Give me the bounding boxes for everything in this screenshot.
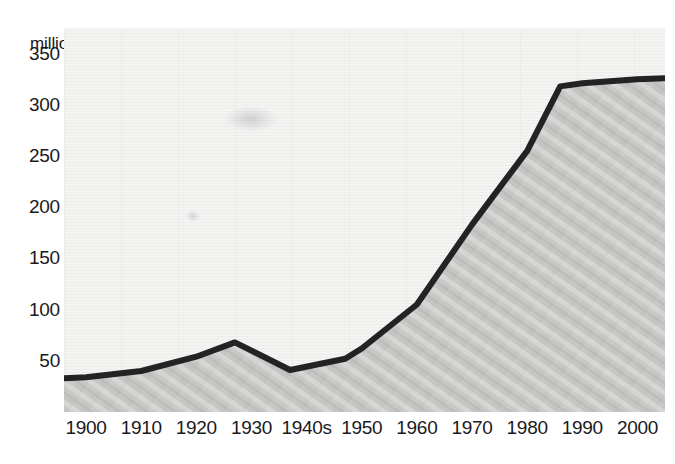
x-tick-label: 1930 bbox=[231, 417, 272, 439]
line-chart-figure: million bottles 35030025020015010050 bbox=[0, 0, 675, 464]
x-tick-label: 1900 bbox=[66, 417, 107, 439]
y-tick-label: 50 bbox=[2, 350, 60, 372]
series-area-fill bbox=[64, 78, 665, 412]
y-tick-label: 200 bbox=[2, 196, 60, 218]
y-tick-label: 100 bbox=[2, 299, 60, 321]
x-tick-label: 1990 bbox=[562, 417, 603, 439]
x-tick-label: 1970 bbox=[451, 417, 492, 439]
x-tick-label: 2000 bbox=[617, 417, 658, 439]
y-tick-label: 250 bbox=[2, 145, 60, 167]
y-tick-label: 300 bbox=[2, 94, 60, 116]
x-tick-label: 1940s bbox=[281, 417, 331, 439]
y-tick-label: 150 bbox=[2, 247, 60, 269]
x-axis-tick-labels: 19001910192019301940s1950196019701980199… bbox=[0, 417, 675, 447]
x-tick-label: 1980 bbox=[507, 417, 548, 439]
chart-plot-svg bbox=[64, 28, 665, 412]
y-axis-tick-labels: 35030025020015010050 bbox=[0, 0, 60, 464]
x-tick-label: 1910 bbox=[121, 417, 162, 439]
plot-area bbox=[64, 28, 665, 412]
x-tick-label: 1920 bbox=[176, 417, 217, 439]
x-tick-label: 1960 bbox=[396, 417, 437, 439]
y-tick-label: 350 bbox=[2, 43, 60, 65]
x-tick-label: 1950 bbox=[341, 417, 382, 439]
